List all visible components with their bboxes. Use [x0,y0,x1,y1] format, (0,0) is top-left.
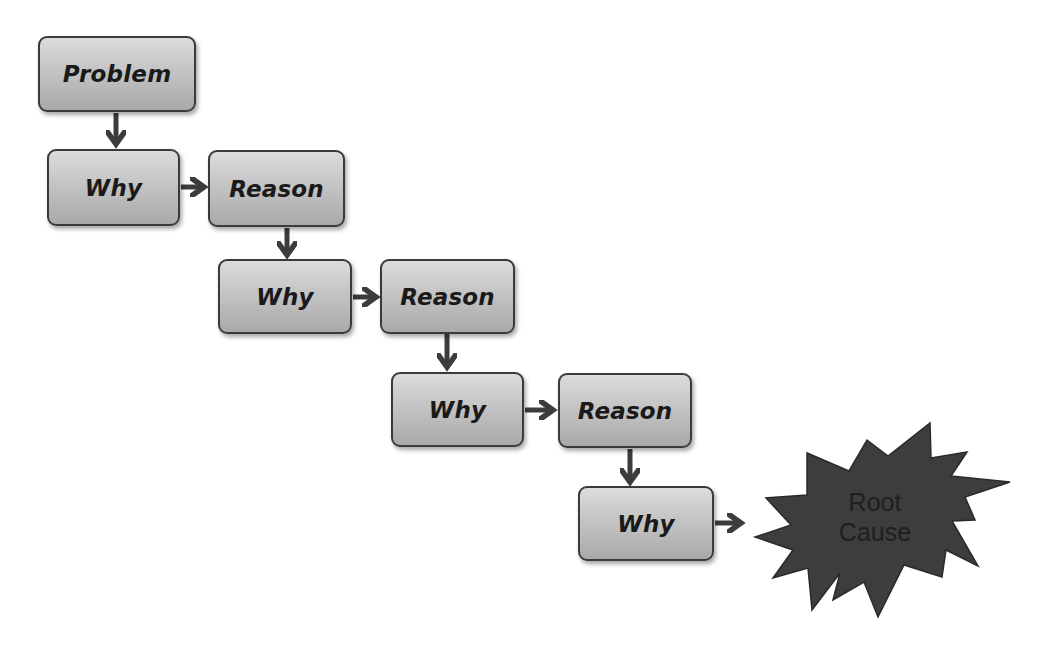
reason-label-2: Reason [400,284,495,310]
reason-box-1: Reason [208,150,345,227]
why-box-1: Why [47,149,180,226]
root-cause-line-2: Cause [820,517,930,547]
root-cause-line-1: Root [820,487,930,517]
why-label-4: Why [617,511,674,537]
reason-box-2: Reason [380,259,515,334]
reason-box-3: Reason [558,373,692,448]
why-box-4: Why [578,486,714,561]
problem-box: Problem [38,36,196,112]
reason-label-1: Reason [229,176,324,202]
why-box-3: Why [391,372,524,447]
reason-label-3: Reason [578,398,673,424]
why-box-2: Why [218,259,352,334]
problem-label: Problem [63,61,172,87]
why-label-2: Why [256,284,313,310]
why-label-1: Why [85,175,142,201]
why-label-3: Why [429,397,486,423]
root-cause-label: Root Cause [820,487,930,547]
